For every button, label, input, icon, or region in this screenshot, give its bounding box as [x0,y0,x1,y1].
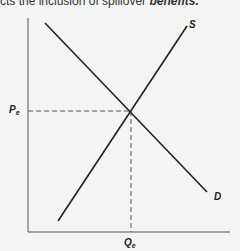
demand-label: D [214,191,221,202]
supply-demand-chart: S D Pe Qe [0,0,240,251]
price-label-sub: e [16,109,20,116]
supply-curve [58,26,187,221]
supply-label: S [189,19,196,30]
price-label: Pe [9,104,20,116]
quantity-label: Qe [124,237,136,249]
quantity-label-sub: e [132,242,136,249]
demand-curve [45,23,207,192]
